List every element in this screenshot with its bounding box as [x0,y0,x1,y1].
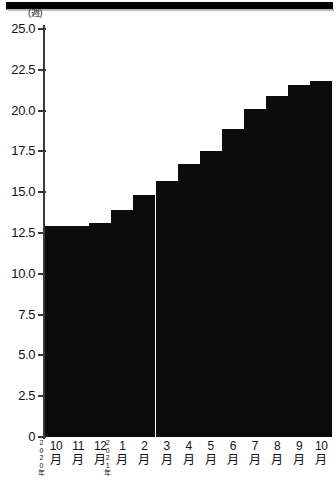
top-divider-shadow [8,9,334,11]
bar [310,81,332,437]
bar [45,226,67,437]
x-axis-month-kanji: 月 [222,453,244,467]
x-axis-month-number: 9 [288,440,310,453]
bar [156,181,178,437]
y-axis-tick-label: 2.5 [1,389,35,402]
y-axis-tick-label: 20.0 [1,104,35,117]
bar [67,226,89,437]
x-axis-month-kanji: 月 [45,453,67,467]
x-axis-month-number: 3 [156,440,178,453]
x-axis-category-label: 9月 [288,440,310,467]
x-axis-category-label: 2月 [133,440,155,467]
x-axis-month-kanji: 月 [288,453,310,467]
x-axis-year-char: 2 [37,454,46,462]
bar [178,164,200,437]
x-axis-category-label: 11月 [67,440,89,467]
y-axis-tick-label: 12.5 [1,226,35,239]
x-axis-month-kanji: 月 [111,453,133,467]
x-axis-month-kanji: 月 [200,453,222,467]
x-axis-month-number: 7 [244,440,266,453]
x-axis-month-kanji: 月 [244,453,266,467]
x-axis-month-number: 2 [133,440,155,453]
bar [222,129,244,437]
bar [288,85,310,438]
y-axis-tick-label: 0 [1,430,35,443]
bar-chart-figure: (週) 25.022.520.017.515.012.510.07.55.02.… [0,0,336,497]
x-axis-month-kanji: 月 [133,453,155,467]
x-axis-year-char: 年 [103,469,112,477]
bar [89,223,111,437]
y-axis-tick-label: 22.5 [1,63,35,76]
x-axis-month-number: 8 [266,440,288,453]
y-axis-unit-label: (週) [28,8,42,19]
bar [244,109,266,437]
x-axis-category-label: 8月 [266,440,288,467]
x-axis-month-number: 6 [222,440,244,453]
x-axis-year-char: 2 [103,454,112,462]
x-axis-month-kanji: 月 [266,453,288,467]
y-axis-tick-label: 25.0 [1,22,35,35]
x-axis-category-label: 6月 [222,440,244,467]
x-axis-month-kanji: 月 [178,453,200,467]
x-axis-month-number: 10 [310,440,332,453]
x-axis-month-number: 4 [178,440,200,453]
x-axis-category-label: 5月 [200,440,222,467]
y-axis-tick-label: 15.0 [1,185,35,198]
x-axis-category-label: 3月 [156,440,178,467]
x-axis-month-kanji: 月 [156,453,178,467]
x-axis-year-char: 0 [103,447,112,455]
bar [133,195,155,437]
bar-series [45,29,333,437]
y-axis-tick-label: 7.5 [1,308,35,321]
x-axis-category-label: 1月 [111,440,133,467]
y-axis-tick-label: 17.5 [1,144,35,157]
x-axis-year-char: 0 [37,447,46,455]
bar [266,96,288,437]
x-axis-month-number: 11 [67,440,89,453]
y-axis-tick-label: 10.0 [1,267,35,280]
x-axis-year-char: 2 [103,439,112,447]
x-axis-category-label: 7月 [244,440,266,467]
x-axis-year-label: 2020年 [37,439,46,477]
x-axis-year-char: 2 [37,439,46,447]
x-axis-month-kanji: 月 [67,453,89,467]
x-axis-year-label: 2021年 [103,439,112,477]
x-axis-month-number: 10 [45,440,67,453]
x-axis-month-kanji: 月 [310,453,332,467]
x-axis-category-label: 10月 [45,440,67,467]
y-axis-tick-label: 5.0 [1,348,35,361]
bar [111,210,133,437]
bar [200,151,222,437]
x-axis-labels: 10月11月12月1月2月3月4月5月6月7月8月9月10月2020年2021年 [45,440,333,497]
x-axis-category-label: 4月 [178,440,200,467]
x-axis-month-number: 5 [200,440,222,453]
x-axis-month-number: 1 [111,440,133,453]
x-axis-category-label: 10月 [310,440,332,467]
x-axis-year-char: 年 [37,469,46,477]
